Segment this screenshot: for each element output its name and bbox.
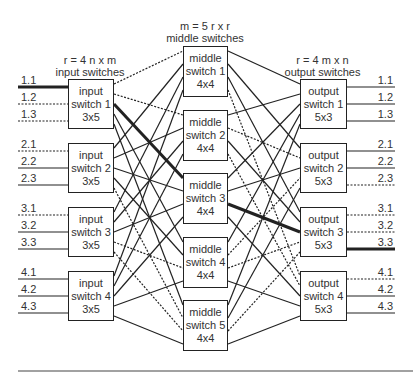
middle-switch-3-line1: middle: [189, 179, 221, 192]
output-switch-1-line1: output: [308, 85, 339, 98]
middle-switch-5-line3: 4x4: [197, 332, 215, 345]
input-switch-2-line3: 3x5: [82, 175, 100, 188]
input-port-label: 4.3: [21, 301, 36, 312]
output-port-label: 3.3: [373, 237, 393, 248]
input-switch-4-line1: input: [79, 277, 103, 290]
input-port-label: 1.3: [21, 109, 36, 120]
output-switch-2: outputswitch 25x3: [300, 143, 347, 193]
output-port-label: 1.1: [373, 75, 393, 86]
output-switch-1-line3: 5x3: [315, 111, 333, 124]
middle-switch-3-line3: 4x4: [197, 205, 215, 218]
input-switch-3-line2: switch 3: [71, 226, 111, 239]
middle-header: m = 5 r x r middle switches: [155, 20, 255, 44]
middle-switch-1: middleswitch 14x4: [183, 46, 228, 97]
input-port-label: 2.1: [21, 139, 36, 150]
middle-switch-1-line2: switch 1: [186, 65, 226, 78]
input-switch-2-line2: switch 2: [71, 162, 111, 175]
input-port-label: 3.1: [21, 203, 36, 214]
input-switch-1-line2: switch 1: [71, 98, 111, 111]
output-switch-4-line1: output: [308, 277, 339, 290]
output-port-label: 3.1: [373, 203, 393, 214]
input-switch-4-line3: 3x5: [82, 303, 100, 316]
output-switch-3-line2: switch 3: [304, 226, 344, 239]
middle-switch-4-line3: 4x4: [197, 269, 215, 282]
input-port-label: 4.1: [21, 267, 36, 278]
input-switch-1-line1: input: [79, 85, 103, 98]
input-port-label: 3.2: [21, 220, 36, 231]
middle-switch-4-line2: switch 4: [186, 256, 226, 269]
input-port-label: 2.2: [21, 156, 36, 167]
middle-header-formula: m = 5 r x r: [155, 20, 255, 32]
input-switch-2: inputswitch 23x5: [68, 143, 114, 193]
output-header: r = 4 m x n output switches: [270, 54, 375, 78]
middle-switch-3-line2: switch 3: [186, 192, 226, 205]
input-port-label: 2.3: [21, 173, 36, 184]
middle-header-title: middle switches: [155, 32, 255, 44]
input-switch-1: inputswitch 13x5: [68, 79, 114, 129]
output-port-label: 4.3: [373, 301, 393, 312]
middle-switch-1-line1: middle: [189, 52, 221, 65]
output-header-title: output switches: [270, 66, 375, 78]
output-port-label: 2.3: [373, 173, 393, 184]
input-port-label: 1.2: [21, 92, 36, 103]
output-switch-2-line2: switch 2: [304, 162, 344, 175]
output-port-label: 2.2: [373, 156, 393, 167]
input-switch-4: inputswitch 43x5: [68, 271, 114, 321]
middle-switch-5-line1: middle: [189, 306, 221, 319]
output-switch-4: outputswitch 45x3: [300, 271, 347, 321]
middle-switch-5-line2: switch 5: [186, 319, 226, 332]
middle-switch-1-line3: 4x4: [197, 78, 215, 91]
middle-switch-4-line1: middle: [189, 243, 221, 256]
input-switch-1-line3: 3x5: [82, 111, 100, 124]
input-header: r = 4 n x m input switches: [40, 54, 140, 78]
input-header-title: input switches: [40, 66, 140, 78]
output-port-label: 1.2: [373, 92, 393, 103]
input-switch-3-line1: input: [79, 213, 103, 226]
output-switch-2-line1: output: [308, 149, 339, 162]
input-port-label: 3.3: [21, 237, 36, 248]
middle-switch-2-line3: 4x4: [197, 142, 215, 155]
output-port-label: 4.1: [373, 267, 393, 278]
middle-switch-5: middleswitch 54x4: [183, 300, 228, 351]
input-port-label: 4.2: [21, 284, 36, 295]
input-switch-3-line3: 3x5: [82, 239, 100, 252]
input-header-formula: r = 4 n x m: [40, 54, 140, 66]
output-switch-3-line1: output: [308, 213, 339, 226]
output-switch-4-line3: 5x3: [315, 303, 333, 316]
output-switch-4-line2: switch 4: [304, 290, 344, 303]
output-switch-1: outputswitch 15x3: [300, 79, 347, 129]
middle-switch-2-line1: middle: [189, 116, 221, 129]
output-header-formula: r = 4 m x n: [270, 54, 375, 66]
input-switch-3: inputswitch 33x5: [68, 207, 114, 257]
output-switch-1-line2: switch 1: [304, 98, 344, 111]
output-port-label: 3.2: [373, 220, 393, 231]
middle-switch-2-line2: switch 2: [186, 129, 226, 142]
output-port-label: 2.1: [373, 139, 393, 150]
input-port-label: 1.1: [21, 75, 36, 86]
output-switch-2-line3: 5x3: [315, 175, 333, 188]
middle-switch-3: middleswitch 34x4: [183, 173, 228, 224]
input-switch-2-line1: input: [79, 149, 103, 162]
output-switch-3-line3: 5x3: [315, 239, 333, 252]
output-switch-3: outputswitch 35x3: [300, 207, 347, 257]
middle-switch-2: middleswitch 24x4: [183, 110, 228, 161]
input-switch-4-line2: switch 4: [71, 290, 111, 303]
output-port-label: 1.3: [373, 109, 393, 120]
output-port-label: 4.2: [373, 284, 393, 295]
middle-switch-4: middleswitch 44x4: [183, 237, 228, 288]
